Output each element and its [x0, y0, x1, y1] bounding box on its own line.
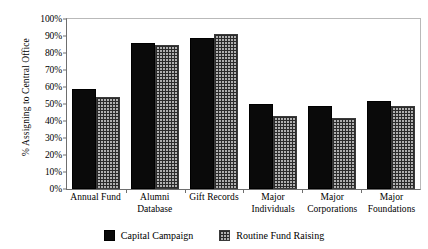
- bars-layer: [67, 19, 420, 189]
- bar-capital-campaign: [131, 43, 155, 189]
- bar-routine-fund-raising: [391, 106, 415, 189]
- bar-routine-fund-raising: [332, 118, 356, 189]
- bar-group: [67, 19, 126, 189]
- x-axis-label: Annual Fund: [66, 192, 125, 215]
- bar-routine-fund-raising: [155, 45, 179, 190]
- bar-capital-campaign: [72, 89, 96, 189]
- legend-item-routine-fund-raising: Routine Fund Raising: [219, 230, 324, 241]
- bar-group: [243, 19, 302, 189]
- bar-capital-campaign: [249, 104, 273, 189]
- legend-swatch-capital-campaign: [104, 230, 115, 241]
- x-axis-label: Major Corporations: [303, 192, 362, 215]
- plot-area: 100%90%80%70%60%50%40%30%20%10%0%: [66, 18, 421, 190]
- legend-label-capital-campaign: Capital Campaign: [121, 230, 194, 241]
- bar-capital-campaign: [308, 106, 332, 189]
- bar-routine-fund-raising: [273, 116, 297, 189]
- y-axis-title: % Assigning to Central Office: [21, 7, 31, 187]
- bar-group: [126, 19, 185, 189]
- bar-capital-campaign: [367, 101, 391, 189]
- bar-capital-campaign: [190, 38, 214, 189]
- bar-group: [361, 19, 420, 189]
- bar-group: [302, 19, 361, 189]
- chart-legend: Capital Campaign Routine Fund Raising: [0, 230, 428, 241]
- legend-item-capital-campaign: Capital Campaign: [104, 230, 194, 241]
- x-axis-label: Major Individuals: [244, 192, 303, 215]
- x-axis-label: Alumni Database: [125, 192, 184, 215]
- bar-routine-fund-raising: [96, 97, 120, 189]
- legend-swatch-routine-fund-raising: [219, 230, 230, 241]
- x-axis-labels: Annual FundAlumni DatabaseGift RecordsMa…: [66, 192, 421, 215]
- bar-group: [185, 19, 244, 189]
- bar-routine-fund-raising: [214, 34, 238, 189]
- x-axis-label: Major Foundations: [362, 192, 421, 215]
- grouped-bar-chart: % Assigning to Central Office 100%90%80%…: [0, 0, 428, 249]
- legend-label-routine-fund-raising: Routine Fund Raising: [236, 230, 324, 241]
- x-axis-label: Gift Records: [184, 192, 243, 215]
